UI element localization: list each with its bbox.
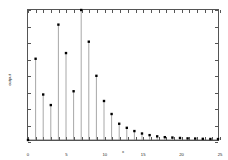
chart-figure: output x 00.20.40.60.811.21.41.6 0510152… xyxy=(0,0,228,160)
data-point-marker xyxy=(171,136,173,138)
data-point-marker xyxy=(133,130,135,132)
data-point-marker xyxy=(118,123,120,125)
data-point-marker xyxy=(126,127,128,129)
data-point-marker xyxy=(209,138,211,140)
data-point-marker xyxy=(194,137,196,139)
data-point-marker xyxy=(156,135,158,137)
data-point-marker xyxy=(34,58,36,60)
data-point-marker xyxy=(202,138,204,140)
x-tick-label: 5 xyxy=(65,153,67,157)
data-point-marker xyxy=(217,138,219,140)
x-tick-label: 25 xyxy=(218,153,223,157)
y-tick-mark xyxy=(215,142,218,143)
data-point-marker xyxy=(42,93,44,95)
data-point-marker xyxy=(27,139,29,141)
data-point-marker xyxy=(95,75,97,77)
x-axis-label: x xyxy=(122,150,124,154)
y-tick-mark xyxy=(28,142,31,143)
x-tick-label: 0 xyxy=(27,153,29,157)
x-tick-label: 20 xyxy=(179,153,184,157)
x-tick-label: 15 xyxy=(141,153,146,157)
stem-series xyxy=(28,10,218,140)
data-point-marker xyxy=(110,113,112,115)
data-point-marker xyxy=(164,136,166,138)
data-point-marker xyxy=(88,41,90,43)
data-point-marker xyxy=(50,104,52,106)
data-point-marker xyxy=(65,52,67,54)
data-point-marker xyxy=(72,90,74,92)
data-point-marker xyxy=(57,23,59,25)
data-point-marker xyxy=(179,137,181,139)
x-tick-label: 10 xyxy=(102,153,107,157)
y-axis-label: output xyxy=(8,74,12,86)
plot-area: 00.20.40.60.811.21.41.6 0510152025 xyxy=(27,9,219,141)
x-tick-mark xyxy=(220,137,221,140)
x-tick-mark xyxy=(220,10,221,13)
data-point-marker xyxy=(148,134,150,136)
data-point-marker xyxy=(186,137,188,139)
data-point-marker xyxy=(141,132,143,134)
data-point-marker xyxy=(103,100,105,102)
data-point-marker xyxy=(80,9,82,11)
